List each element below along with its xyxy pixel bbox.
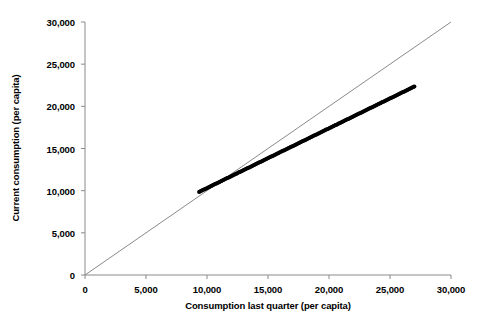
- x-tick-label: 25,000: [376, 284, 404, 295]
- y-axis-ticks: [81, 22, 85, 275]
- x-tick-label: 30,000: [437, 284, 465, 295]
- x-tick-label: 0: [82, 284, 87, 295]
- y-tick-label: 25,000: [0, 59, 75, 70]
- y-tick-label: 5,000: [0, 227, 75, 238]
- scatter-points-group: [197, 85, 416, 194]
- y-tick-label: 0: [0, 270, 75, 281]
- identity-reference-line: [85, 22, 451, 275]
- x-tick-label: 20,000: [315, 284, 343, 295]
- scatter-chart: 05,00010,00015,00020,00025,00030,000 05,…: [0, 0, 480, 324]
- x-axis-title: Consumption last quarter (per capita): [185, 300, 351, 311]
- x-axis-ticks: [85, 275, 451, 279]
- x-tick-label: 15,000: [254, 284, 282, 295]
- x-tick-label: 10,000: [193, 284, 221, 295]
- scatter-point: [412, 85, 416, 89]
- y-axis-title: Current consumption (per capita): [10, 74, 21, 221]
- x-tick-label: 5,000: [134, 284, 157, 295]
- y-tick-label: 30,000: [0, 17, 75, 28]
